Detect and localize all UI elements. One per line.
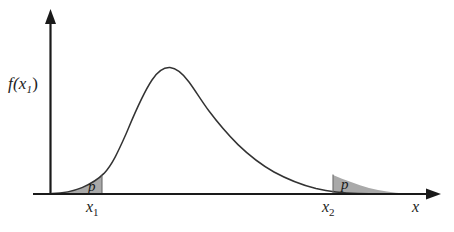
x2-subscript: 2 [329, 206, 335, 218]
x-axis-tick-label-x2: x2 [322, 198, 335, 218]
left-tail-probability-label: p [88, 178, 96, 195]
y-axis-label: f(x1) [8, 74, 38, 95]
plot-canvas [0, 0, 454, 232]
y-axis-label-base: f(x [8, 74, 27, 93]
y-axis-label-close-paren: ) [32, 74, 38, 93]
x-axis-arrow-icon [426, 188, 441, 199]
y-axis-arrow-icon [45, 9, 56, 24]
x1-subscript: 1 [93, 206, 99, 218]
right-tail-probability-label: p [341, 176, 349, 193]
probability-density-figure: f(x1) x1 x2 x p p [0, 0, 454, 232]
x-axis-tick-label-x1: x1 [86, 198, 99, 218]
x-axis-label: x [412, 198, 419, 216]
density-curve [52, 68, 408, 194]
